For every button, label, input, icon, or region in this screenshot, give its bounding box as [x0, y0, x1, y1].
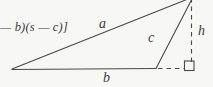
label-side-a: a	[99, 17, 106, 31]
side-c-line	[156, 0, 193, 69]
side-a-line	[12, 0, 193, 69]
label-side-b: b	[103, 71, 110, 85]
label-height-h: h	[198, 24, 205, 38]
side-b-line	[12, 69, 156, 70]
geometry-figure: — b)(s — c)] a b c h	[0, 0, 213, 87]
triangle-solid-edges	[12, 0, 193, 70]
label-side-c: c	[148, 31, 154, 45]
right-angle-square-icon	[185, 61, 195, 71]
